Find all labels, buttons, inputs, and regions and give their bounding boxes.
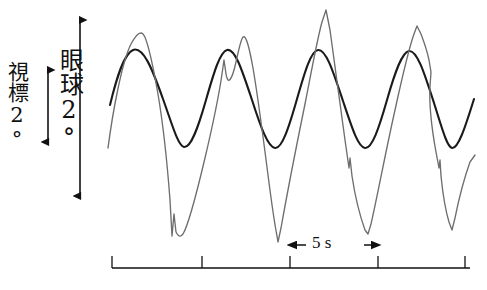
timescale-label: 5 s xyxy=(312,233,331,253)
eye-scale-label: 眼球2° xyxy=(57,48,81,152)
target-scale-label: 視標2° xyxy=(6,61,27,151)
target-trace xyxy=(110,50,474,149)
eye-movement-figure: 視標2° 眼球2° 5 s xyxy=(0,0,487,290)
eye-trace xyxy=(108,10,475,242)
